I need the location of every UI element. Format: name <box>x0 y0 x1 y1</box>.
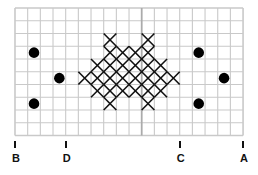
cross-stitch <box>91 59 104 72</box>
cross-stitch <box>91 85 104 98</box>
dot-stitch <box>29 98 40 109</box>
marker-tick <box>65 141 67 148</box>
cross-stitch <box>116 72 129 85</box>
cross-stitch <box>142 85 155 98</box>
cross-stitch <box>167 72 180 85</box>
marker-tick <box>242 141 244 148</box>
cross-stitch <box>154 72 167 85</box>
cross-stitch <box>116 59 129 72</box>
dot-stitch <box>193 47 204 58</box>
cross-stitch <box>116 46 129 59</box>
cross-stitch <box>142 59 155 72</box>
marker-label: B <box>12 153 20 164</box>
cross-stitch <box>154 85 167 98</box>
cross-stitch <box>104 97 117 110</box>
cross-stitch <box>142 34 155 47</box>
marker-label: C <box>177 153 185 164</box>
cross-stitch <box>129 72 142 85</box>
cross-stitch <box>154 59 167 72</box>
cross-stitch <box>142 97 155 110</box>
cross-stitch <box>129 59 142 72</box>
cross-stitch <box>78 72 91 85</box>
dot-stitch <box>29 47 40 58</box>
cross-stitch <box>104 59 117 72</box>
marker-label: D <box>63 153 71 164</box>
marker-tick <box>14 141 16 148</box>
cross-stitch <box>104 85 117 98</box>
stitch-chart <box>0 0 258 175</box>
cross-stitch <box>129 46 142 59</box>
cross-stitch <box>116 85 129 98</box>
marker-tick <box>179 141 181 148</box>
dot-stitch <box>219 73 230 84</box>
cross-stitch <box>104 34 117 47</box>
cross-stitch <box>142 46 155 59</box>
cross-stitch <box>104 46 117 59</box>
marker-label: A <box>240 153 248 164</box>
cross-stitch <box>91 72 104 85</box>
dot-stitch <box>193 98 204 109</box>
cross-stitch <box>142 72 155 85</box>
dot-stitch <box>54 73 65 84</box>
cross-stitch <box>129 85 142 98</box>
cross-stitch <box>104 72 117 85</box>
